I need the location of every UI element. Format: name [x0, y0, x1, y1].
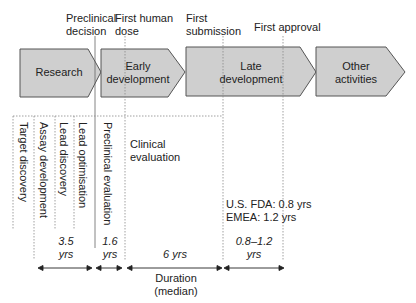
milestone-first-approval: First approval: [254, 21, 321, 34]
milestone-first-human-dose: First human dose: [115, 12, 173, 38]
phase-label-research: Research: [28, 66, 90, 79]
phase-label-other-activities: Other activities: [320, 60, 392, 86]
phase-label-late-development: Late development: [196, 60, 306, 86]
step-target-discovery: Target discovery: [18, 122, 30, 202]
regulatory-fda: U.S. FDA: 0.8 yrs: [226, 198, 312, 211]
phase-label-early-development: Early development: [104, 60, 172, 86]
step-preclinical-evaluation: Preclinical evaluation: [102, 122, 114, 225]
duration-research: 3.5 yrs: [48, 235, 84, 261]
milestone-preclinical-decision: Preclinical decision: [66, 12, 116, 38]
duration-preclinical: 1.6 yrs: [97, 235, 123, 261]
step-lead-discovery: Lead discovery: [58, 122, 70, 196]
step-assay-development: Assay development: [38, 122, 50, 218]
duration-clinical: 6 yrs: [150, 248, 200, 261]
duration-caption: Duration (median): [146, 272, 206, 298]
step-lead-optimisation: Lead optimisation: [77, 122, 89, 208]
regulatory-emea: EMEA: 1.2 yrs: [226, 211, 296, 224]
duration-regulatory: 0.8–1.2 yrs: [228, 235, 280, 261]
clinical-evaluation-label: Clinical evaluation: [130, 138, 180, 164]
milestone-first-submission: First submission: [186, 12, 241, 38]
duration-arrows: [38, 266, 284, 271]
